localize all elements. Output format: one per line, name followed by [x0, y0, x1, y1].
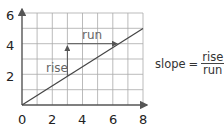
slope-formula: slope = rise run [155, 51, 224, 76]
x-tick: 6 [109, 112, 117, 127]
formula-lhs: slope [155, 57, 186, 71]
formula-equals: = [189, 57, 199, 71]
y-tick: 6 [6, 8, 14, 23]
y-tick: 2 [6, 69, 14, 84]
rise-label: rise [46, 61, 68, 75]
x-tick: 4 [78, 112, 86, 127]
formula-fraction: rise run [201, 51, 224, 76]
grid [22, 13, 143, 105]
x-tick: 8 [139, 112, 147, 127]
x-tick: 0 [18, 112, 26, 127]
x-tick: 2 [48, 112, 56, 127]
run-label: run [82, 28, 102, 42]
formula-denominator: run [203, 64, 222, 76]
y-tick: 4 [6, 38, 14, 53]
